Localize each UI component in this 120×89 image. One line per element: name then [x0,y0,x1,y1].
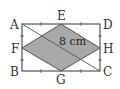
label-a: A [9,18,19,32]
label-d: D [103,18,113,32]
label-h: H [103,42,113,56]
label-c: C [103,65,112,79]
geometry-diagram: A E D F H B G C 8 cm [0,0,120,89]
label-f: F [11,42,19,56]
label-e: E [57,9,66,23]
measurement-label: 8 cm [59,35,87,48]
label-g: G [56,73,66,87]
label-b: B [10,65,19,79]
